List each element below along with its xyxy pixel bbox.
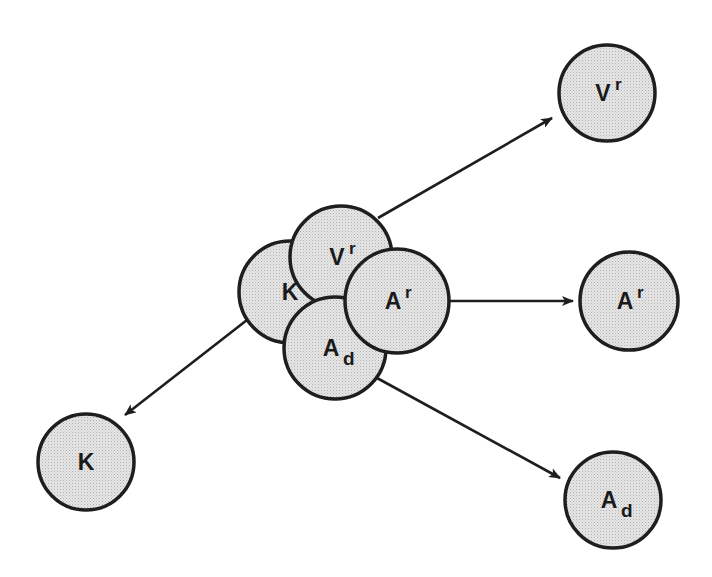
node-label: V	[329, 244, 345, 270]
node-label: V	[595, 80, 611, 106]
node-label-superscript: r	[405, 283, 412, 302]
product-node-vr: Vr	[559, 45, 655, 141]
arrow-to-k	[125, 320, 247, 415]
product-node-ar: Ar	[580, 252, 678, 350]
arrow-to-vr	[378, 118, 552, 218]
arrow-to-ad	[377, 378, 560, 478]
node-label: A	[385, 288, 402, 314]
node-label-subscript: d	[621, 500, 633, 521]
product-node-ad: Ad	[565, 452, 661, 548]
node-label-subscript: d	[343, 348, 355, 369]
node-label-superscript: r	[615, 75, 622, 94]
node-label: A	[601, 487, 618, 513]
node-label: K	[78, 449, 95, 475]
complex-node-ar: Ar	[345, 249, 449, 353]
node-label: A	[323, 335, 340, 361]
product-node-k: K	[38, 414, 134, 510]
complex-cluster: KVrAdAr	[239, 206, 449, 399]
dissociation-diagram: KVrAdAr VrArKAd	[0, 0, 712, 577]
node-label: A	[617, 288, 634, 314]
node-label-superscript: r	[637, 283, 644, 302]
node-label-superscript: r	[349, 239, 356, 258]
